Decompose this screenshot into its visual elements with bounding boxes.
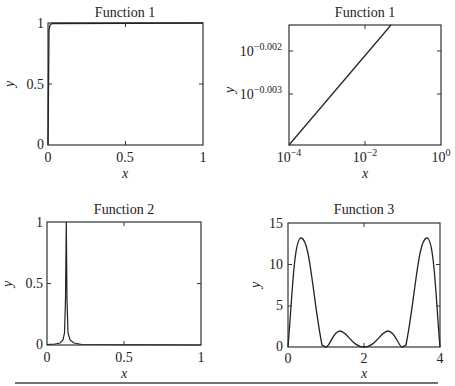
y-tick-label: 10−0.002: [240, 41, 282, 59]
y-tick-label: 0.5: [26, 276, 44, 291]
y-tick-label: 0: [37, 137, 44, 152]
x-tick-label: 1: [200, 150, 207, 165]
y-tick-label: 0: [276, 339, 283, 354]
figure: Function 1 0 0.5 1 0 0.5 1 x y Function …: [0, 0, 455, 386]
y-tick-label: 10−0.003: [240, 84, 282, 102]
x-tick-label: 10−4: [277, 147, 302, 165]
data-line: [289, 25, 391, 145]
plot-function-1-linear: Function 1 0 0.5 1 0 0.5 1 x y: [2, 5, 207, 181]
x-tick-label: 10−2: [353, 147, 378, 165]
plot-title: Function 3: [334, 202, 394, 217]
x-tick-label: 2: [361, 351, 368, 366]
y-tick-label: 1: [37, 16, 44, 31]
axes-frame: [288, 223, 440, 347]
x-axis-label: x: [360, 366, 368, 381]
data-line: [288, 238, 440, 347]
axes-frame: [47, 222, 201, 345]
plot-function-2: Function 2 0 0.5 1 0 0.5 1 x y: [0, 202, 205, 381]
plot-function-3: Function 3 0 2 4 0 5 10 15 x y: [248, 202, 444, 381]
y-axis-label: y: [222, 86, 237, 95]
y-tick-label: 0: [36, 337, 43, 352]
y-axis-label: y: [2, 80, 17, 89]
y-tick-label: 1: [36, 215, 43, 230]
y-tick-label: 0.5: [27, 77, 45, 92]
x-axis-label: x: [121, 166, 129, 181]
y-tick-label: 10: [269, 257, 283, 272]
y-tick-label: 15: [269, 216, 283, 231]
x-tick-label: 0: [44, 350, 51, 365]
plot-title: Function 1: [95, 5, 155, 20]
x-axis-label: x: [361, 166, 369, 181]
plot-title: Function 1: [335, 5, 395, 20]
plot-function-1-loglog: Function 1 10−0.002 10−0.003 10−4 10−2 1…: [222, 5, 451, 181]
x-tick-label: 4: [437, 351, 444, 366]
x-axis-label: x: [120, 366, 128, 381]
y-axis-label: y: [248, 281, 263, 290]
y-axis-label: y: [0, 280, 15, 289]
x-tick-label: 0.5: [116, 150, 134, 165]
x-tick-label: 100: [432, 147, 451, 165]
y-tick-label: 5: [276, 298, 283, 313]
axes-frame: [289, 25, 441, 145]
data-line: [48, 23, 203, 145]
plot-title: Function 2: [94, 202, 154, 217]
data-line: [47, 222, 201, 345]
x-tick-label: 1: [198, 350, 205, 365]
x-tick-label: 0: [285, 351, 292, 366]
x-tick-label: 0: [45, 150, 52, 165]
axes-frame: [48, 23, 203, 145]
x-tick-label: 0.5: [115, 350, 133, 365]
